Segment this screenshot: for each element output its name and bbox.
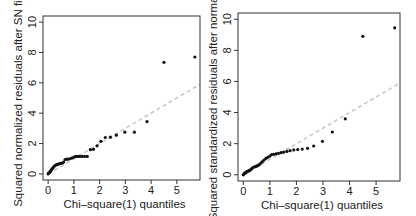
plot-frame bbox=[238, 13, 400, 181]
x-axis-title: Chi–square(1) quantiles bbox=[63, 198, 185, 210]
x-tick-label: 2 bbox=[97, 184, 103, 196]
data-point bbox=[296, 148, 299, 151]
y-tick-label: 8 bbox=[221, 47, 233, 53]
data-point bbox=[145, 120, 148, 123]
data-points bbox=[242, 26, 397, 176]
data-point bbox=[361, 35, 364, 38]
data-point bbox=[393, 26, 396, 29]
x-tick-label: 2 bbox=[293, 185, 299, 197]
x-tick-label: 3 bbox=[122, 184, 128, 196]
data-point bbox=[162, 61, 165, 64]
reference-line bbox=[243, 83, 400, 175]
data-point bbox=[279, 151, 282, 154]
data-point bbox=[321, 140, 324, 143]
y-tick-label: 8 bbox=[26, 49, 38, 55]
data-point bbox=[282, 151, 285, 154]
x-tick-label: 4 bbox=[346, 185, 352, 197]
x-axis: 012345 bbox=[240, 181, 379, 197]
x-tick-label: 5 bbox=[174, 184, 180, 196]
data-point bbox=[92, 148, 95, 151]
data-point bbox=[288, 149, 291, 152]
data-point bbox=[95, 144, 98, 147]
y-tick-label: 2 bbox=[221, 141, 233, 147]
data-point bbox=[285, 150, 288, 153]
reference-line bbox=[48, 84, 200, 174]
y-tick-label: 10 bbox=[26, 16, 38, 28]
data-point bbox=[193, 55, 196, 58]
y-tick-label: 0 bbox=[26, 171, 38, 177]
x-tick-label: 0 bbox=[240, 185, 246, 197]
data-point bbox=[292, 148, 295, 151]
data-point bbox=[123, 131, 126, 134]
data-point bbox=[104, 136, 107, 139]
data-point bbox=[86, 155, 89, 158]
qq-plot-normal-fit: 012345Chi–square(1) quantiles0246810Squa… bbox=[208, 0, 416, 216]
x-axis-title: Chi–square(1) quantiles bbox=[261, 199, 383, 211]
y-tick-label: 4 bbox=[221, 109, 233, 115]
left-chart-panel: 012345Chi–square(1) quantiles0246810Squa… bbox=[0, 0, 208, 216]
qq-plot-sn-fit: 012345Chi–square(1) quantiles0246810Squa… bbox=[0, 0, 208, 216]
y-axis-title: Squared standardized residuals after nor… bbox=[208, 0, 219, 216]
y-tick-label: 6 bbox=[221, 78, 233, 84]
data-point bbox=[133, 131, 136, 134]
y-tick-label: 10 bbox=[221, 13, 233, 25]
data-point bbox=[89, 148, 92, 151]
data-point bbox=[331, 130, 334, 133]
y-tick-label: 0 bbox=[221, 172, 233, 178]
y-tick-label: 4 bbox=[26, 110, 38, 116]
data-point bbox=[306, 147, 309, 150]
y-tick-label: 2 bbox=[26, 140, 38, 146]
y-axis: 0246810 bbox=[221, 13, 238, 178]
x-tick-label: 0 bbox=[45, 184, 51, 196]
data-point bbox=[312, 144, 315, 147]
x-tick-label: 5 bbox=[373, 185, 379, 197]
x-axis: 012345 bbox=[45, 180, 180, 196]
data-point bbox=[301, 148, 304, 151]
x-tick-label: 1 bbox=[71, 184, 77, 196]
y-axis-title: Squared normalized residuals after SN fi… bbox=[12, 0, 24, 207]
x-tick-label: 1 bbox=[267, 185, 273, 197]
data-point bbox=[115, 134, 118, 137]
data-point bbox=[109, 136, 112, 139]
x-tick-label: 3 bbox=[320, 185, 326, 197]
data-point bbox=[99, 140, 102, 143]
x-tick-label: 4 bbox=[148, 184, 154, 196]
data-points bbox=[47, 55, 197, 175]
data-point bbox=[277, 152, 280, 155]
right-chart-panel: 012345Chi–square(1) quantiles0246810Squa… bbox=[208, 0, 416, 216]
data-point bbox=[344, 117, 347, 120]
y-tick-label: 6 bbox=[26, 80, 38, 86]
y-axis: 0246810 bbox=[26, 16, 43, 177]
